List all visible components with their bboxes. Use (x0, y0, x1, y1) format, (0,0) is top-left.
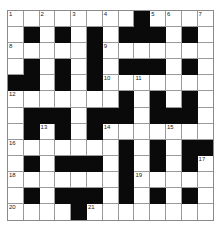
letter-cell[interactable] (40, 59, 56, 75)
letter-cell[interactable] (182, 43, 198, 59)
letter-cell[interactable] (150, 43, 166, 59)
letter-cell[interactable] (182, 172, 198, 188)
letter-cell[interactable] (198, 59, 214, 75)
letter-cell[interactable] (166, 75, 182, 91)
letter-cell[interactable] (8, 188, 24, 204)
letter-cell[interactable] (150, 124, 166, 140)
letter-cell[interactable] (87, 172, 103, 188)
letter-cell[interactable]: 3 (71, 11, 87, 27)
letter-cell[interactable] (103, 91, 119, 107)
letter-cell[interactable] (71, 75, 87, 91)
letter-cell[interactable] (134, 124, 150, 140)
letter-cell[interactable] (103, 188, 119, 204)
letter-cell[interactable] (24, 11, 40, 27)
letter-cell[interactable] (166, 43, 182, 59)
letter-cell[interactable] (182, 124, 198, 140)
letter-cell[interactable] (87, 11, 103, 27)
letter-cell[interactable] (103, 172, 119, 188)
letter-cell[interactable] (166, 59, 182, 75)
letter-cell[interactable] (166, 188, 182, 204)
letter-cell[interactable] (55, 43, 71, 59)
letter-cell[interactable] (182, 11, 198, 27)
letter-cell[interactable] (71, 140, 87, 156)
letter-cell[interactable] (40, 75, 56, 91)
letter-cell[interactable] (198, 108, 214, 124)
letter-cell[interactable] (198, 188, 214, 204)
letter-cell[interactable] (134, 204, 150, 220)
letter-cell[interactable]: 8 (8, 43, 24, 59)
letter-cell[interactable] (166, 172, 182, 188)
letter-cell[interactable] (8, 124, 24, 140)
letter-cell[interactable]: 4 (103, 11, 119, 27)
letter-cell[interactable] (103, 59, 119, 75)
letter-cell[interactable] (119, 11, 135, 27)
letter-cell[interactable]: 12 (8, 91, 24, 107)
letter-cell[interactable] (8, 108, 24, 124)
letter-cell[interactable] (182, 204, 198, 220)
letter-cell[interactable] (198, 75, 214, 91)
letter-cell[interactable] (8, 156, 24, 172)
letter-cell[interactable] (182, 75, 198, 91)
letter-cell[interactable]: 18 (8, 172, 24, 188)
letter-cell[interactable] (24, 43, 40, 59)
letter-cell[interactable] (55, 11, 71, 27)
letter-cell[interactable]: 17 (198, 156, 214, 172)
letter-cell[interactable] (198, 43, 214, 59)
letter-cell[interactable] (150, 204, 166, 220)
letter-cell[interactable] (55, 140, 71, 156)
letter-cell[interactable]: 21 (87, 204, 103, 220)
letter-cell[interactable]: 11 (134, 75, 150, 91)
letter-cell[interactable] (8, 27, 24, 43)
letter-cell[interactable] (87, 140, 103, 156)
letter-cell[interactable]: 19 (134, 172, 150, 188)
letter-cell[interactable] (24, 204, 40, 220)
letter-cell[interactable]: 6 (166, 11, 182, 27)
letter-cell[interactable] (198, 172, 214, 188)
letter-cell[interactable]: 5 (150, 11, 166, 27)
letter-cell[interactable] (71, 108, 87, 124)
letter-cell[interactable]: 9 (103, 43, 119, 59)
letter-cell[interactable]: 7 (198, 11, 214, 27)
letter-cell[interactable] (103, 204, 119, 220)
letter-cell[interactable] (8, 59, 24, 75)
letter-cell[interactable]: 13 (40, 124, 56, 140)
letter-cell[interactable]: 1 (8, 11, 24, 27)
letter-cell[interactable] (166, 204, 182, 220)
letter-cell[interactable]: 14 (103, 124, 119, 140)
letter-cell[interactable] (71, 59, 87, 75)
letter-cell[interactable] (71, 172, 87, 188)
letter-cell[interactable] (55, 204, 71, 220)
letter-cell[interactable] (24, 140, 40, 156)
letter-cell[interactable] (198, 204, 214, 220)
letter-cell[interactable] (134, 156, 150, 172)
letter-cell[interactable] (166, 27, 182, 43)
letter-cell[interactable] (71, 27, 87, 43)
letter-cell[interactable] (40, 27, 56, 43)
letter-cell[interactable] (87, 91, 103, 107)
letter-cell[interactable] (24, 91, 40, 107)
letter-cell[interactable] (198, 27, 214, 43)
letter-cell[interactable] (134, 188, 150, 204)
letter-cell[interactable] (71, 43, 87, 59)
letter-cell[interactable] (24, 172, 40, 188)
letter-cell[interactable] (55, 172, 71, 188)
letter-cell[interactable] (198, 91, 214, 107)
letter-cell[interactable] (119, 75, 135, 91)
letter-cell[interactable] (40, 91, 56, 107)
letter-cell[interactable] (71, 91, 87, 107)
letter-cell[interactable]: 10 (103, 75, 119, 91)
letter-cell[interactable] (150, 75, 166, 91)
letter-cell[interactable] (103, 156, 119, 172)
letter-cell[interactable] (55, 91, 71, 107)
letter-cell[interactable] (40, 156, 56, 172)
letter-cell[interactable] (119, 204, 135, 220)
letter-cell[interactable] (166, 156, 182, 172)
letter-cell[interactable]: 15 (166, 124, 182, 140)
letter-cell[interactable] (134, 43, 150, 59)
letter-cell[interactable] (150, 172, 166, 188)
letter-cell[interactable] (103, 140, 119, 156)
letter-cell[interactable]: 16 (8, 140, 24, 156)
letter-cell[interactable] (198, 124, 214, 140)
letter-cell[interactable] (71, 124, 87, 140)
letter-cell[interactable] (40, 172, 56, 188)
